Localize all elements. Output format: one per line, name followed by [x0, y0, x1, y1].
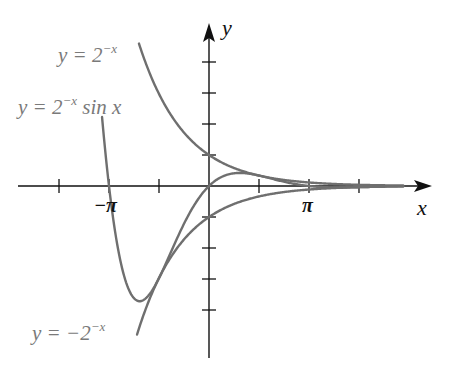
curve-2-pow-neg-x-sin-x: [102, 117, 403, 301]
x-tick-label-pi: π: [302, 194, 314, 216]
curve-2-pow-neg-x: [139, 44, 403, 186]
curve-neg-2-pow-neg-x: [137, 186, 403, 334]
x-axis-label: x: [416, 195, 427, 220]
curve-label-2-pow-neg-x-sin-x: y = 2−x sin x: [16, 93, 122, 119]
curve-label-neg-2-pow-neg-x: y = −2−x: [30, 319, 105, 345]
curves: [102, 44, 403, 335]
curve-label-2-pow-neg-x: y = 2−x: [56, 41, 117, 67]
y-axis-label: y: [220, 15, 232, 40]
x-tick-label-neg-pi: −π: [94, 194, 118, 216]
chart: y x −π π y = 2−x y = 2−x sin x y = −2−x: [0, 0, 451, 379]
